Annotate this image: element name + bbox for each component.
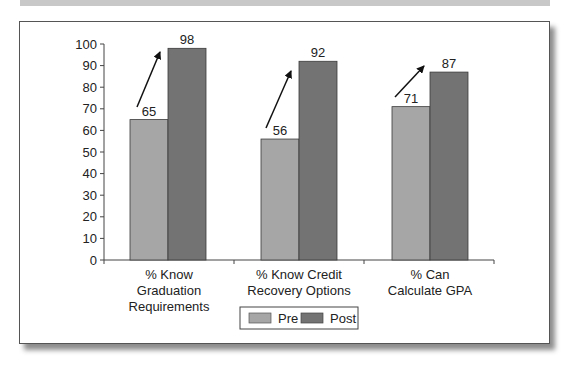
category-label: Graduation	[137, 283, 201, 298]
value-label: 87	[442, 56, 456, 71]
bar-chart: 0102030405060708090100 655671989287% Kno…	[0, 0, 575, 367]
y-tick-label: 50	[83, 145, 97, 160]
category-label: % Can	[410, 267, 449, 282]
increase-arrow-icon	[266, 71, 291, 128]
category-label: Recovery Options	[247, 283, 351, 298]
bar-pre	[261, 139, 299, 260]
y-tick-label: 10	[83, 231, 97, 246]
bars	[130, 48, 468, 260]
bar-post	[299, 61, 337, 260]
legend-swatch-pre	[249, 313, 271, 323]
legend: Pre Post	[240, 307, 358, 329]
category-label: Calculate GPA	[388, 283, 473, 298]
category-label: Requirements	[129, 299, 210, 314]
y-tick-label: 100	[75, 37, 97, 52]
value-label: 71	[404, 91, 418, 106]
legend-label-pre: Pre	[278, 311, 298, 326]
legend-label-post: Post	[330, 311, 356, 326]
value-label: 56	[273, 123, 287, 138]
value-label: 98	[180, 32, 194, 47]
value-label: 92	[311, 45, 325, 60]
y-tick-label: 90	[83, 58, 97, 73]
bar-pre	[130, 120, 168, 260]
y-tick-label: 40	[83, 166, 97, 181]
category-label: % Know Credit	[256, 267, 342, 282]
y-tick-label: 70	[83, 101, 97, 116]
y-tick-label: 60	[83, 123, 97, 138]
bar-post	[168, 48, 206, 260]
bar-pre	[392, 107, 430, 260]
value-label: 65	[142, 104, 156, 119]
increase-arrow-icon	[137, 52, 160, 107]
category-label: % Know	[145, 267, 193, 282]
y-tick-label: 20	[83, 209, 97, 224]
y-tick-label: 0	[90, 253, 97, 268]
y-tick-label: 80	[83, 80, 97, 95]
bar-post	[430, 72, 468, 260]
y-tick-label: 30	[83, 188, 97, 203]
legend-swatch-post	[301, 313, 323, 323]
